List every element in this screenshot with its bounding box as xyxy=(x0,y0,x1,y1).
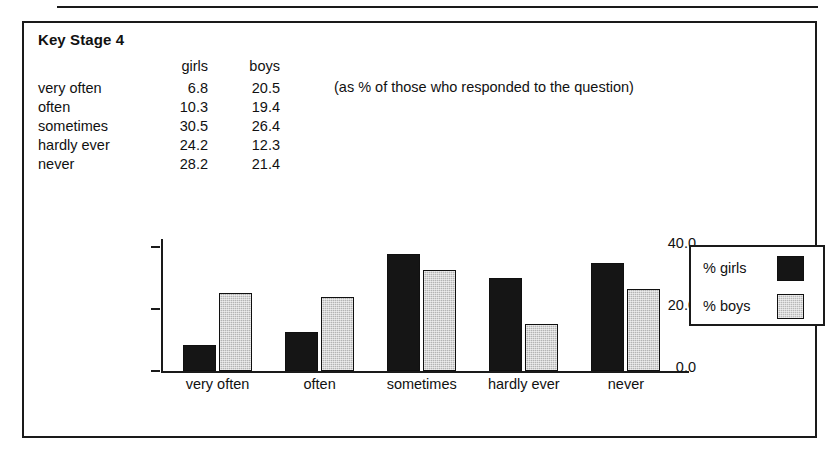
cell-girls: 10.3 xyxy=(146,98,218,117)
table-row: very often 6.8 20.5 xyxy=(34,79,290,98)
y-tick-mark-40 xyxy=(151,246,160,248)
x-axis-line xyxy=(161,371,689,373)
cell-girls: 6.8 xyxy=(146,79,218,98)
cell-boys: 26.4 xyxy=(218,117,290,136)
bar-never-girls xyxy=(591,263,624,371)
bar-hardly-ever-boys xyxy=(525,324,558,371)
legend-swatch-boys-icon xyxy=(777,294,804,319)
cell-category: never xyxy=(34,155,146,174)
key-stage-4-panel: Key Stage 4 girls boys very often 6.8 20… xyxy=(22,21,817,438)
chart-legend: % girls % boys xyxy=(689,245,825,326)
cell-girls: 28.2 xyxy=(146,155,218,174)
x-tick-label-never: never xyxy=(566,376,686,392)
legend-swatch-girls-icon xyxy=(777,256,804,281)
column-header-girls: girls xyxy=(146,53,218,79)
bar-chart: 40.0 20.0 0.0 very often often sometimes… xyxy=(76,218,696,423)
table-row: sometimes 30.5 26.4 xyxy=(34,117,290,136)
legend-item-girls: % girls xyxy=(691,249,823,287)
chart-note: (as % of those who responded to the ques… xyxy=(334,79,634,95)
bar-often-boys xyxy=(321,297,354,371)
bars-container xyxy=(161,218,689,371)
table-row: never 28.2 21.4 xyxy=(34,155,290,174)
data-table: girls boys very often 6.8 20.5 often 10.… xyxy=(34,53,290,174)
cell-girls: 30.5 xyxy=(146,117,218,136)
bar-sometimes-boys xyxy=(423,270,456,371)
bar-often-girls xyxy=(285,332,318,371)
page-title: Key Stage 4 xyxy=(38,31,124,48)
table-header-row: girls boys xyxy=(34,53,290,79)
column-header-category xyxy=(34,53,146,79)
bar-sometimes-girls xyxy=(387,254,420,371)
legend-item-boys: % boys xyxy=(691,287,823,325)
cell-boys: 20.5 xyxy=(218,79,290,98)
bar-very-often-girls xyxy=(183,345,216,371)
legend-label-boys: % boys xyxy=(703,298,777,314)
y-tick-mark-0 xyxy=(151,370,160,372)
cell-category: often xyxy=(34,98,146,117)
cell-category: hardly ever xyxy=(34,136,146,155)
cell-category: sometimes xyxy=(34,117,146,136)
cell-boys: 12.3 xyxy=(218,136,290,155)
cell-girls: 24.2 xyxy=(146,136,218,155)
cell-category: very often xyxy=(34,79,146,98)
legend-label-girls: % girls xyxy=(703,260,777,276)
y-tick-mark-20 xyxy=(151,308,160,310)
bar-never-boys xyxy=(627,289,660,371)
cell-boys: 21.4 xyxy=(218,155,290,174)
table-row: hardly ever 24.2 12.3 xyxy=(34,136,290,155)
column-header-boys: boys xyxy=(218,53,290,79)
table-row: often 10.3 19.4 xyxy=(34,98,290,117)
bar-very-often-boys xyxy=(219,293,252,371)
bar-hardly-ever-girls xyxy=(489,278,522,371)
top-divider-rule xyxy=(57,6,818,8)
cell-boys: 19.4 xyxy=(218,98,290,117)
